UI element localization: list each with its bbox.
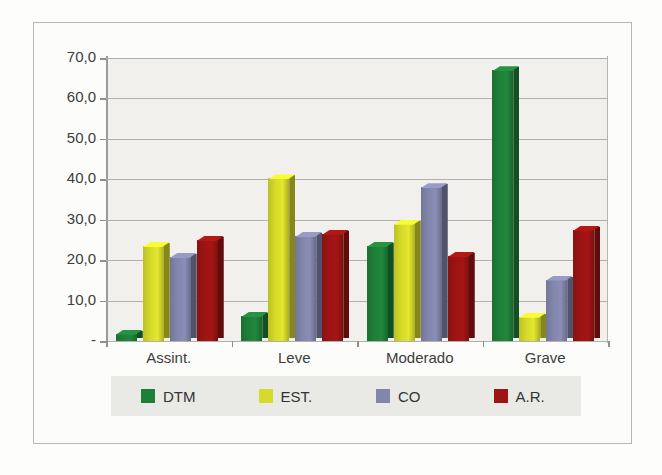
- bar-front-face: [394, 224, 415, 341]
- x-axis-tick: [483, 341, 485, 347]
- bar-est-grave: [519, 317, 540, 341]
- legend-label: A.R.: [516, 388, 545, 405]
- legend-item-dtm[interactable]: DTM: [111, 388, 229, 405]
- legend-swatch-icon: [494, 389, 508, 403]
- x-axis-tick: [232, 341, 234, 347]
- bar-front-face: [295, 236, 316, 341]
- bar-front-face: [367, 246, 388, 341]
- y-axis-label: 20,0: [34, 250, 96, 267]
- figure-frame: -10,020,030,040,050,060,070,0 Assint.Lev…: [33, 22, 632, 444]
- y-axis-label: 60,0: [34, 88, 96, 105]
- bar-front-face: [519, 317, 540, 341]
- bar-dtm-grave: [492, 70, 513, 341]
- y-axis-label: 40,0: [34, 169, 96, 186]
- x-axis-label-moderado: Moderado: [357, 349, 483, 366]
- bar-dtm-assint: [116, 334, 137, 341]
- bar-front-face: [116, 334, 137, 341]
- y-axis-tick: [100, 139, 106, 141]
- gridline: [106, 220, 608, 221]
- bar-front-face: [197, 240, 218, 341]
- bar-dtm-leve: [241, 316, 262, 341]
- x-axis-label-grave: Grave: [483, 349, 609, 366]
- y-axis-tick: [100, 260, 106, 262]
- gridline: [106, 58, 608, 59]
- bar-front-face: [322, 234, 343, 341]
- x-axis-label-assint: Assint.: [106, 349, 232, 366]
- bar-front-face: [492, 70, 513, 341]
- legend-swatch-icon: [141, 389, 155, 403]
- x-axis-label-leve: Leve: [232, 349, 358, 366]
- y-axis-label: 50,0: [34, 129, 96, 146]
- gridline: [106, 139, 608, 140]
- bar-est-leve: [268, 178, 289, 341]
- bar-chart: -10,020,030,040,050,060,070,0 Assint.Lev…: [34, 23, 633, 445]
- bar-ar-assint: [197, 240, 218, 341]
- x-axis-tick: [357, 341, 359, 347]
- bar-front-face: [170, 257, 191, 341]
- bar-side-face: [343, 231, 349, 338]
- legend-label: CO: [398, 388, 421, 405]
- bar-co-grave: [546, 280, 567, 341]
- y-axis-tick: [100, 301, 106, 303]
- legend-label: EST.: [281, 388, 313, 405]
- bar-est-assint: [143, 246, 164, 341]
- legend-item-ar[interactable]: A.R.: [464, 388, 582, 405]
- bar-co-leve: [295, 236, 316, 341]
- bar-ar-leve: [322, 234, 343, 341]
- bar-co-moderado: [421, 187, 442, 341]
- bar-front-face: [268, 178, 289, 341]
- x-axis-tick: [608, 341, 610, 347]
- chart-legend: DTMEST.COA.R.: [111, 376, 581, 416]
- bar-side-face: [469, 253, 475, 338]
- bar-ar-moderado: [448, 256, 469, 341]
- gridline: [106, 179, 608, 180]
- bar-ar-grave: [573, 230, 594, 341]
- bar-est-moderado: [394, 224, 415, 341]
- bar-side-face: [513, 67, 519, 338]
- bar-dtm-moderado: [367, 246, 388, 341]
- y-axis-tick: [100, 58, 106, 60]
- bar-side-face: [594, 227, 600, 338]
- gridline: [106, 98, 608, 99]
- legend-item-co[interactable]: CO: [346, 388, 464, 405]
- y-axis-tick: [100, 179, 106, 181]
- y-axis-tick: [100, 220, 106, 222]
- y-axis-label: 30,0: [34, 210, 96, 227]
- legend-item-est[interactable]: EST.: [229, 388, 347, 405]
- bar-front-face: [448, 256, 469, 341]
- y-axis-label: 10,0: [34, 291, 96, 308]
- legend-swatch-icon: [259, 389, 273, 403]
- x-axis-tick: [106, 341, 108, 347]
- bar-front-face: [241, 316, 262, 341]
- legend-swatch-icon: [376, 389, 390, 403]
- y-axis-tick: [100, 98, 106, 100]
- bar-front-face: [546, 280, 567, 341]
- bar-co-assint: [170, 257, 191, 341]
- page-background: -10,020,030,040,050,060,070,0 Assint.Lev…: [0, 0, 662, 475]
- bar-front-face: [143, 246, 164, 341]
- y-axis-label: -: [34, 331, 96, 348]
- bar-side-face: [218, 237, 224, 338]
- legend-label: DTM: [163, 388, 196, 405]
- bar-front-face: [573, 230, 594, 341]
- bar-front-face: [421, 187, 442, 341]
- y-axis-label: 70,0: [34, 48, 96, 65]
